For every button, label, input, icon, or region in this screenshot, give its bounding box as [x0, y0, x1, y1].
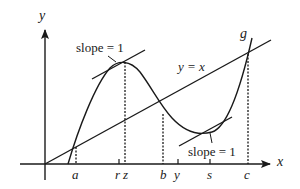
tick-label-y: y [172, 167, 180, 182]
tick-label-z: z [122, 167, 128, 182]
curve-label: g [240, 26, 247, 41]
tangent-min: slope = 1 [179, 117, 236, 159]
tick-label-b: b [160, 167, 167, 182]
y-axis: y [37, 8, 46, 180]
tick-label-a: a [72, 167, 79, 182]
slope-label-min: slope = 1 [188, 144, 236, 159]
x-axis-label: x [276, 154, 284, 169]
tick-label-r: r [115, 167, 121, 182]
identity-line-label: y = x [176, 59, 205, 74]
slope-label-max: slope = 1 [76, 40, 124, 55]
tick-label-s: s [207, 167, 212, 182]
identity-line: y = x [45, 40, 271, 164]
tick-label-c: c [244, 167, 250, 182]
tangent-max: slope = 1 [76, 40, 145, 79]
tick-marks [119, 159, 210, 164]
y-axis-label: y [37, 8, 46, 23]
x-tick-labels: a r z b y s c [72, 167, 250, 182]
function-diagram: y x y = x g slope = 1 slope = 1 [0, 0, 300, 189]
